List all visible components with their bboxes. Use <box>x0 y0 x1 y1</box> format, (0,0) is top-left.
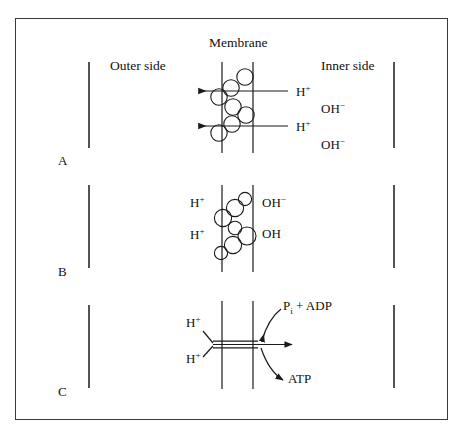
panel-a-proton-1: H+ <box>296 84 310 98</box>
atp-symbol: ATP <box>288 371 311 386</box>
panel-a-hydroxide-1: OH− <box>321 101 345 115</box>
proton-charge: + <box>305 83 310 93</box>
hydroxide-charge: − <box>340 136 345 146</box>
panel-b-proton-1: H+ <box>190 195 204 209</box>
panel-b-water: OH <box>262 227 281 240</box>
hydroxide-symbol: OH <box>262 195 281 210</box>
proton-symbol: H <box>186 315 195 330</box>
panel-c-substrate-label: Pi + ADP <box>283 299 332 316</box>
adp-term: + ADP <box>293 298 332 313</box>
panel-b-proton-2: H+ <box>190 227 204 241</box>
panel-c-proton-2: H+ <box>186 351 200 365</box>
hydroxide-charge: − <box>281 194 286 204</box>
proton-charge: + <box>195 314 200 324</box>
panel-c-product-label: ATP <box>288 372 311 385</box>
proton-charge: + <box>199 226 204 236</box>
proton-charge: + <box>199 194 204 204</box>
panel-c-proton-1: H+ <box>186 315 200 329</box>
membrane-header: Membrane <box>209 36 267 50</box>
panel-b-graphics <box>89 185 394 272</box>
proton-symbol: H <box>296 119 305 134</box>
hydroxide-charge: − <box>340 100 345 110</box>
panel-a-proton-2: H+ <box>296 119 310 133</box>
proton-symbol: H <box>186 351 195 366</box>
panel-b-hydroxide: OH− <box>262 195 286 209</box>
panel-letter-c: C <box>58 385 67 398</box>
panel-c-graphics <box>89 301 394 389</box>
inner-side-header: Inner side <box>321 59 375 73</box>
panel-a-graphics <box>89 62 394 153</box>
panel-letter-b: B <box>58 265 67 278</box>
hydroxide-symbol: OH <box>321 137 340 152</box>
water-symbol: OH <box>262 226 281 241</box>
diagram-canvas <box>0 0 462 436</box>
proton-charge: + <box>195 350 200 360</box>
panel-letter-a: A <box>58 154 67 167</box>
outer-side-header: Outer side <box>110 59 166 73</box>
proton-symbol: H <box>190 195 199 210</box>
proton-charge: + <box>305 118 310 128</box>
hydroxide-symbol: OH <box>321 101 340 116</box>
panel-a-hydroxide-2: OH− <box>321 137 345 151</box>
proton-symbol: H <box>190 227 199 242</box>
proton-symbol: H <box>296 84 305 99</box>
